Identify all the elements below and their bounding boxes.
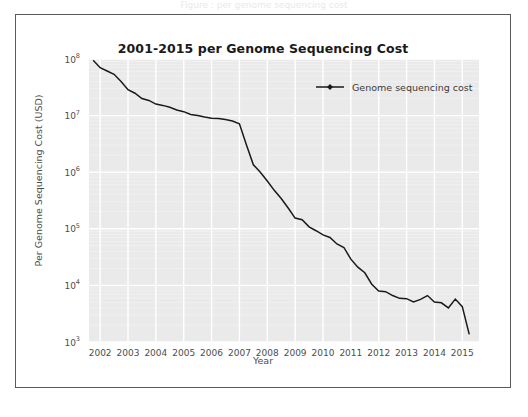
y-tick-label: 105 — [64, 222, 80, 235]
y-tick-label: 107 — [64, 109, 80, 122]
chart-figure: 2001-2015 per Genome Sequencing Cost Per… — [16, 15, 510, 387]
y-tick-label: 106 — [64, 165, 80, 178]
plot-area: 108107106105104103 200220032004200520062… — [16, 15, 510, 387]
caption-fragment: Figure : per genome sequencing cost — [0, 0, 528, 10]
x-axis-label: Year — [16, 355, 510, 366]
legend-label: Genome sequencing cost — [352, 82, 473, 93]
chart-title: 2001-2015 per Genome Sequencing Cost — [16, 41, 510, 56]
screenshot-root: Figure : per genome sequencing cost 2001… — [0, 0, 528, 417]
figure-card: 2001-2015 per Genome Sequencing Cost Per… — [15, 14, 511, 388]
y-axis-ticks: 108107106105104103 — [64, 52, 80, 348]
y-tick-label: 103 — [64, 335, 80, 348]
y-tick-label: 104 — [64, 278, 80, 291]
y-axis-label: Per Genome Sequencing Cost (USD) — [33, 81, 44, 281]
